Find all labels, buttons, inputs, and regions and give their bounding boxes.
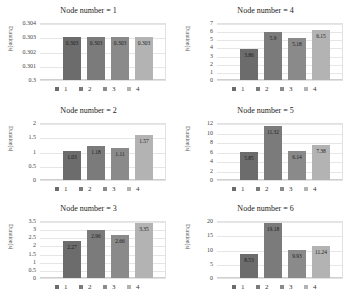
legend-swatch-icon [256,187,260,191]
chart-title: Node number = 5 [177,106,354,115]
y-tick-label: 0.5 [29,163,37,169]
bar-value-label: 5.85 [236,155,262,161]
bar-value-label: 11.32 [260,129,286,135]
legend-label: 4 [313,85,317,93]
gridline [40,124,165,125]
y-tick-label: 10 [207,130,213,136]
legend-item: 4 [127,283,140,291]
bar-series-2: 1.18 [87,146,105,180]
legend-item: 2 [256,85,269,93]
plot-area: 5.8511.326.147.38 [217,123,343,181]
bar-series-2: 11.32 [264,126,282,180]
y-tick-label: 0 [33,177,36,183]
bar-value-label: 0.303 [83,40,109,46]
legend-label: 4 [136,185,140,193]
plot-area: 8.5319.189.9311.24 [217,221,343,279]
legend-swatch-icon [127,187,131,191]
y-axis-label: Duration(s) [185,126,191,151]
y-tick-label: 2.5 [29,234,37,240]
y-tick-label: 0.302 [23,49,37,55]
bar-value-label: 2.96 [83,233,109,239]
chart-title: Node number = 2 [0,106,177,115]
y-tick-label: 0.304 [23,20,37,26]
legend-item: 2 [79,85,92,93]
legend-swatch-icon [55,285,59,289]
legend-label: 1 [241,185,245,193]
legend-swatch-icon [103,87,107,91]
y-axis-label: Duration(s) [185,26,191,51]
bar-value-label: 3.35 [131,226,157,232]
legend-item: 4 [304,283,317,291]
bar-series-3: 1.11 [111,148,129,180]
y-tick-label: 12 [207,120,213,126]
y-tick-label: 3 [210,53,213,59]
legend-label: 1 [241,283,245,291]
legend-label: 1 [64,283,68,291]
y-tick-label: 4 [210,158,213,164]
legend-swatch-icon [280,285,284,289]
legend-swatch-icon [55,87,59,91]
legend-swatch-icon [127,87,131,91]
legend: 1234 [232,185,342,195]
legend: 1234 [55,283,165,293]
bar-series-3: 9.93 [288,250,306,278]
bar-value-label: 8.53 [236,257,262,263]
bar-value-label: 19.18 [260,226,286,232]
y-tick-label: 0.303 [23,34,37,40]
legend-label: 3 [112,283,116,291]
bar-value-label: 5.9 [260,35,286,41]
legend: 1234 [55,185,165,195]
chart-panel: Node number = 2Duration(s)00.511.521.031… [0,100,177,199]
legend-swatch-icon [127,285,131,289]
legend-item: 1 [55,85,68,93]
legend-label: 2 [265,283,269,291]
bar-series-2: 5.9 [264,32,282,80]
bar-series-3: 6.14 [288,151,306,180]
legend-label: 2 [88,85,92,93]
legend-item: 3 [280,85,293,93]
y-axis-label: Duration(s) [8,224,14,249]
y-tick-label: 0 [33,275,36,281]
bar-series-3: 0.303 [111,37,129,80]
bar-series-4: 0.303 [135,37,153,80]
chart-title: Node number = 1 [0,6,177,15]
bar-series-2: 0.303 [87,37,105,80]
legend-swatch-icon [55,187,59,191]
legend-label: 3 [289,185,293,193]
legend: 1234 [55,85,165,95]
y-tick-label: 5 [210,36,213,42]
bar-series-1: 1.03 [63,151,81,180]
legend-swatch-icon [232,187,236,191]
bar-series-4: 6.15 [312,30,330,80]
chart-panel: Node number = 5Duration(s)0246810125.851… [177,100,354,199]
bar-value-label: 0.303 [107,40,133,46]
legend-label: 4 [313,283,317,291]
bar-value-label: 1.57 [131,138,157,144]
legend-label: 4 [313,185,317,193]
legend-item: 2 [79,185,92,193]
legend-label: 3 [112,185,116,193]
bar-value-label: 5.18 [284,41,310,47]
legend-item: 4 [127,185,140,193]
bar-series-1: 3.86 [240,49,258,80]
legend-swatch-icon [304,285,308,289]
legend-item: 1 [55,283,68,291]
chart-panel: Node number = 3Duration(s)00.511.522.533… [0,198,177,297]
legend-label: 3 [289,283,293,291]
legend-item: 3 [103,283,116,291]
legend-label: 4 [136,283,140,291]
plot-area: 2.272.962.663.35 [40,221,166,279]
legend-item: 4 [127,85,140,93]
bar-series-1: 5.85 [240,152,258,180]
bar-value-label: 2.66 [107,238,133,244]
chart-panel: Node number = 6Duration(s)051015208.5319… [177,198,354,297]
y-axis-label: Duration(s) [8,126,14,151]
bar-series-1: 2.27 [63,241,81,278]
legend-item: 1 [55,185,68,193]
y-tick-label: 1 [33,149,36,155]
bar-series-2: 2.96 [87,230,105,278]
bar-series-4: 11.24 [312,246,330,278]
legend-swatch-icon [79,87,83,91]
chart-title: Node number = 4 [177,6,354,15]
legend-label: 2 [265,85,269,93]
